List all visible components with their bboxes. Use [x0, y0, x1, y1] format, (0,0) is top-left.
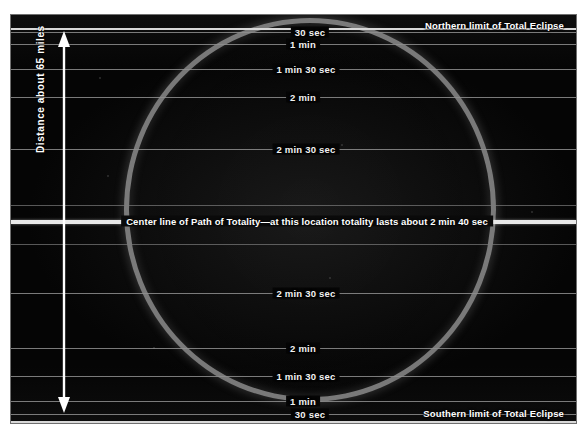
contour-line-s-inner [11, 244, 576, 245]
eclipse-path-figure: 30 sec 1 min 1 min 30 sec 2 min 2 min 30… [0, 0, 587, 439]
grain-speck [329, 277, 331, 279]
contour-label-n-30sec: 30 sec [291, 27, 329, 38]
contour-label-s-1min30: 1 min 30 sec [273, 371, 340, 382]
diagram-panel: 30 sec 1 min 1 min 30 sec 2 min 2 min 30… [10, 14, 577, 424]
contour-label-s-2min30: 2 min 30 sec [273, 288, 340, 299]
contour-label-n-2min30: 2 min 30 sec [273, 144, 340, 155]
contour-label-s-30sec: 30 sec [291, 409, 329, 420]
grain-speck [99, 77, 101, 79]
center-line-label: Center line of Path of Totality—at this … [121, 216, 493, 227]
contour-label-n-1min30: 1 min 30 sec [273, 64, 340, 75]
southern-limit-line [11, 421, 576, 423]
contour-label-n-1min: 1 min [286, 39, 320, 50]
distance-arrow-icon [53, 31, 75, 413]
distance-label: Distance about 65 miles [35, 14, 49, 153]
northern-limit-label: Northern limit of Total Eclipse [425, 20, 564, 31]
contour-label-s-2min: 2 min [286, 343, 320, 354]
grain-speck [341, 144, 343, 146]
grain-speck [531, 211, 533, 213]
contour-line-n-inner [11, 205, 576, 206]
distance-arrow [53, 31, 75, 413]
contour-label-n-2min: 2 min [286, 92, 320, 103]
grain-speck [107, 175, 109, 177]
southern-limit-label: Southern limit of Total Eclipse [423, 408, 564, 419]
contour-label-s-1min: 1 min [286, 396, 320, 407]
